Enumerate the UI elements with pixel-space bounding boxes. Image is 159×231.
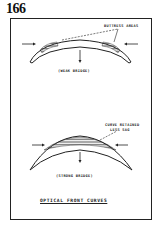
weak-bridge-caption: (WEAK BRIDGE)	[58, 69, 90, 73]
leader-line	[62, 29, 118, 40]
diagram-drawing	[0, 0, 159, 231]
strong-bridge-figure	[30, 131, 132, 170]
leader-line	[114, 29, 118, 42]
curve-retained-label: CURVE RETAINED	[105, 123, 140, 127]
diagram-title: OPTICAL FRONT CURVES	[40, 198, 107, 203]
buttress-areas-label: BUTTRESS AREAS	[104, 24, 139, 28]
less-sag-label: LESS SAG	[110, 128, 130, 132]
leader-line	[100, 131, 117, 140]
strong-bridge-caption: (STRONG BRIDGE)	[56, 174, 93, 178]
weak-bridge-figure	[22, 29, 138, 63]
